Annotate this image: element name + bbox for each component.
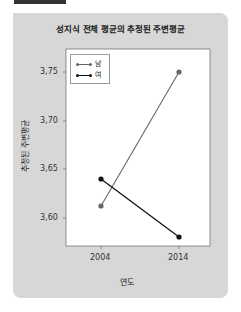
y-tick-3-70: 3,70: [40, 116, 58, 125]
point-male-2004: [98, 203, 103, 208]
x-tick-2004: 2004: [90, 253, 110, 262]
x-axis-label: 연도: [120, 276, 134, 287]
legend-swatch-male: [77, 64, 91, 65]
legend-item-female: 여: [77, 69, 101, 79]
point-male-2014: [176, 69, 181, 74]
y-tick-3-60: 3,60: [40, 213, 58, 222]
y-tick-3-75: 3,75: [40, 67, 58, 76]
y-tick-3-65: 3,65: [40, 164, 58, 173]
legend-swatch-female: [77, 75, 91, 76]
point-female-2004: [98, 176, 103, 181]
y-axis-label: 추정된 주변평균: [19, 120, 30, 172]
x-tick-2014: 2014: [168, 253, 188, 262]
point-female-2014: [176, 234, 181, 239]
legend: 남 여: [70, 54, 110, 84]
plot-area: [0, 0, 241, 312]
legend-item-male: 남: [77, 58, 101, 68]
